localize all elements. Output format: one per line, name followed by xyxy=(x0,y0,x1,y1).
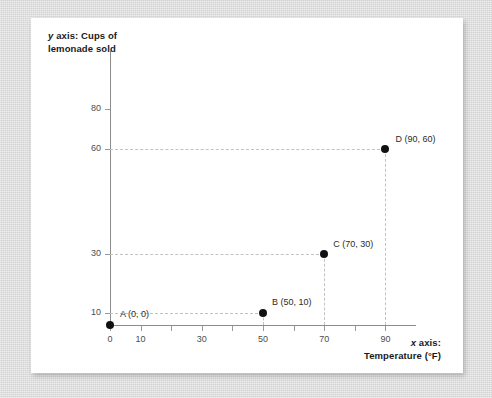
horizontal-guide-line xyxy=(110,149,385,150)
horizontal-guide-line xyxy=(110,254,324,255)
vertical-guide-line xyxy=(324,254,325,325)
data-point-d[interactable] xyxy=(381,145,389,153)
y-axis-line xyxy=(110,49,111,326)
y-axis-tick xyxy=(105,109,110,110)
x-axis-tick xyxy=(324,326,325,331)
x-axis-tick xyxy=(232,326,233,331)
x-axis-tick xyxy=(385,326,386,331)
y-axis-tick-label: 80 xyxy=(71,103,101,113)
x-axis-tick xyxy=(171,326,172,331)
data-point-label-d: D (90, 60) xyxy=(395,134,435,144)
x-axis-tick-label: 0 xyxy=(95,334,125,344)
y-axis-tick-label: 30 xyxy=(71,248,101,258)
vertical-guide-line xyxy=(385,149,386,325)
x-axis-tick xyxy=(202,326,203,331)
x-axis-tick-label: 30 xyxy=(187,334,217,344)
x-axis-tick-label: 50 xyxy=(248,334,278,344)
x-axis-tick xyxy=(294,326,295,331)
data-point-label-c: C (70, 30) xyxy=(333,239,373,249)
data-point-a[interactable] xyxy=(106,321,114,329)
x-axis-tick-label: 10 xyxy=(126,334,156,344)
y-axis-tick-label: 60 xyxy=(71,143,101,153)
chart-card: y axis: Cups oflemonade sold x axis:Temp… xyxy=(31,18,463,373)
y-axis-label-rest: axis: Cups of xyxy=(53,30,117,41)
x-axis-tick xyxy=(355,326,356,331)
x-axis-tick-label: 90 xyxy=(370,334,400,344)
x-axis-label-line2: Temperature (°F) xyxy=(364,350,441,361)
x-axis-tick-label: 70 xyxy=(309,334,339,344)
data-point-label-b: B (50, 10) xyxy=(272,297,312,307)
x-axis-tick xyxy=(141,326,142,331)
scatter-plot: y axis: Cups oflemonade sold x axis:Temp… xyxy=(31,18,463,373)
data-point-label-a: A (0, 0) xyxy=(120,309,149,319)
x-axis-tick xyxy=(263,326,264,331)
data-point-c[interactable] xyxy=(320,250,328,258)
y-axis-label-line2: lemonade sold xyxy=(48,43,116,54)
y-axis-tick-label: 10 xyxy=(71,307,101,317)
y-axis-label: y axis: Cups oflemonade sold xyxy=(48,29,143,55)
data-point-b[interactable] xyxy=(259,309,267,317)
x-axis-label-rest: axis: xyxy=(416,337,441,348)
